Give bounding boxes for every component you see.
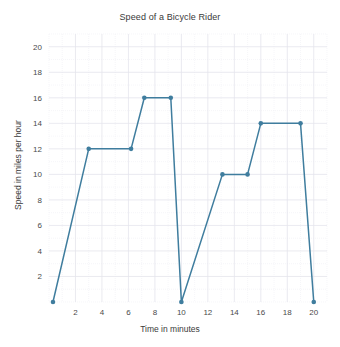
svg-text:4: 4 [38,247,43,256]
svg-text:4: 4 [100,308,105,317]
y-tick-labels: 2468101214161820 [33,43,42,282]
svg-text:6: 6 [38,221,43,230]
grid-major-lines [49,34,327,302]
svg-text:20: 20 [309,308,318,317]
svg-text:2: 2 [73,308,78,317]
svg-text:16: 16 [33,94,42,103]
svg-text:18: 18 [283,308,292,317]
svg-text:12: 12 [33,145,42,154]
x-tick-labels: 2468101214161820 [73,308,319,317]
svg-text:2: 2 [38,272,43,281]
svg-text:12: 12 [203,308,212,317]
svg-text:14: 14 [230,308,239,317]
svg-text:16: 16 [256,308,265,317]
svg-text:20: 20 [33,43,42,52]
svg-text:6: 6 [126,308,131,317]
svg-text:18: 18 [33,68,42,77]
svg-text:8: 8 [153,308,158,317]
chart-figure: Speed of a Bicycle Rider Speed in miles … [0,0,340,347]
svg-text:10: 10 [177,308,186,317]
svg-text:14: 14 [33,119,42,128]
svg-text:10: 10 [33,170,42,179]
svg-text:8: 8 [38,196,43,205]
grid-minor-lines [49,34,327,302]
plot-area: 2468101214161820 2468101214161820 [0,0,340,347]
